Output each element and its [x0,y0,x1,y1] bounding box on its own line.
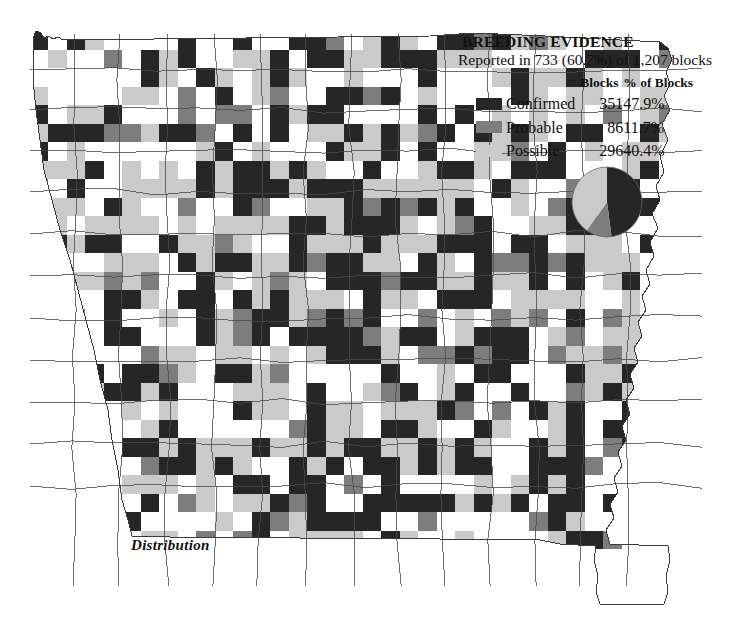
block-cell-possible [85,272,104,291]
block-cell-possible [511,475,530,494]
block-cell-possible [159,475,178,494]
block-cell-probable [548,253,567,272]
block-cell-probable [141,457,160,476]
block-cell-confirmed [566,309,585,328]
block-cell-confirmed [400,420,419,439]
block-cell-confirmed [418,272,437,291]
block-cell-confirmed [437,401,456,420]
block-cell-probable [418,346,437,365]
block-cell-confirmed [548,494,567,513]
block-cell-probable [178,494,197,513]
block-cell-possible [307,198,326,217]
block-cell-possible [585,253,604,272]
block-cell-possible [326,290,345,309]
block-cell-confirmed [363,290,382,309]
block-cell-possible [400,290,419,309]
block-cell-probable [270,512,289,531]
block-cell-confirmed [141,494,160,513]
block-cell-probable [104,272,123,291]
block-cell-possible [122,87,141,106]
block-cell-confirmed [400,383,419,402]
block-cell-probable [233,105,252,124]
block-cell-confirmed [529,401,548,420]
block-cell-confirmed [455,383,474,402]
block-cell-confirmed [215,457,234,476]
block-cell-confirmed [141,50,160,69]
block-cell-possible [381,290,400,309]
block-cell-confirmed [455,346,474,365]
legend-row-confirmed: Confirmed 351 47.9% [476,92,693,115]
block-cell-possible [122,475,141,494]
block-cell-possible [400,124,419,143]
legend-swatch-cell [476,139,506,162]
block-cell-possible [326,420,345,439]
block-cell-confirmed [418,198,437,217]
block-cell-confirmed [344,438,363,457]
block-cell-possible [252,272,271,291]
block-cell-confirmed [289,216,308,235]
block-cell-possible [326,124,345,143]
block-cell-possible [400,457,419,476]
block-cell-possible [178,179,197,198]
block-cell-possible [326,198,345,217]
block-cell-possible [455,494,474,513]
block-cell-confirmed [511,383,530,402]
block-cell-possible [141,383,160,402]
block-cell-possible [548,475,567,494]
block-cell-confirmed [381,50,400,69]
block-cell-possible [400,235,419,254]
block-cell-possible [122,179,141,198]
block-cell-possible [418,420,437,439]
legend-header-blocks: Blocks [575,75,623,92]
block-cell-possible [122,401,141,420]
block-cell-confirmed [178,124,197,143]
block-cell-possible [215,272,234,291]
block-cell-possible [233,438,252,457]
block-cell-confirmed [215,364,234,383]
block-cell-possible [233,235,252,254]
block-cell-possible [418,161,437,180]
legend-subtitle: Reported in 733 (60.7%) of 1,207 blocks [458,51,734,69]
block-cell-confirmed [307,105,326,124]
block-cell-possible [603,253,622,272]
block-cell-possible [418,235,437,254]
block-cell-possible [492,420,511,439]
block-cell-possible [215,512,234,531]
block-cell-possible [122,272,141,291]
block-cell-probable [344,309,363,328]
block-cell-confirmed [122,364,141,383]
block-cell-confirmed [178,253,197,272]
block-cell-confirmed [270,309,289,328]
block-cell-confirmed [233,124,252,143]
block-cell-confirmed [307,512,326,531]
block-cell-confirmed [85,235,104,254]
legend-blocks-probable: 86 [575,116,623,139]
block-cell-confirmed [381,494,400,513]
block-cell-possible [418,87,437,106]
block-cell-possible [363,124,382,143]
block-cell-possible [585,383,604,402]
block-cell-possible [511,198,530,217]
block-cell-confirmed [418,105,437,124]
block-cell-confirmed [548,161,567,180]
block-cell-confirmed [474,272,493,291]
block-cell-possible [178,216,197,235]
block-cell-confirmed [326,50,345,69]
block-cell-confirmed [233,253,252,272]
block-cell-confirmed [270,124,289,143]
block-cell-confirmed [455,198,474,217]
block-cell-possible [289,512,308,531]
block-cell-probable [585,457,604,476]
block-cell-possible [289,309,308,328]
block-cell-confirmed [548,512,567,531]
block-cell-confirmed [400,327,419,346]
block-cell-possible [344,420,363,439]
block-cell-possible [455,179,474,198]
pie-canvas [571,166,643,238]
block-cell-confirmed [511,161,530,180]
block-cell-confirmed [326,272,345,291]
block-cell-probable [511,253,530,272]
block-cell-possible [326,235,345,254]
block-cell-confirmed [474,327,493,346]
block-cell-confirmed [307,50,326,69]
